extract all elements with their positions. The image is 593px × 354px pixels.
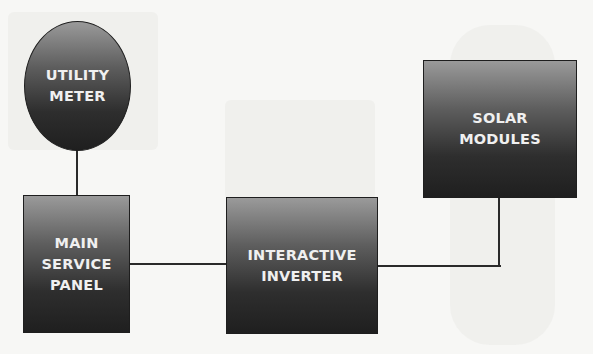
edge-panel-to-inverter bbox=[129, 263, 227, 265]
utility-meter-node: UTILITY METER bbox=[24, 21, 131, 151]
main-service-panel-label: MAIN SERVICE PANEL bbox=[41, 233, 111, 296]
interactive-inverter-label: INTERACTIVE INVERTER bbox=[248, 245, 357, 287]
solar-modules-label: SOLAR MODULES bbox=[459, 108, 541, 150]
main-service-panel-node: MAIN SERVICE PANEL bbox=[23, 195, 130, 333]
edge-meter-to-panel bbox=[76, 150, 78, 196]
solar-modules-node: SOLAR MODULES bbox=[423, 60, 577, 198]
utility-meter-label: UTILITY METER bbox=[46, 65, 110, 107]
edge-inverter-to-solar-horizontal bbox=[377, 265, 501, 267]
background-smudge bbox=[225, 100, 375, 200]
interactive-inverter-node: INTERACTIVE INVERTER bbox=[226, 197, 378, 334]
edge-inverter-to-solar-vertical bbox=[498, 196, 500, 267]
